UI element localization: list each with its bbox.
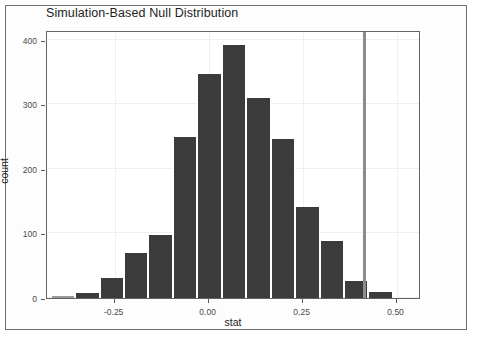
y-tick-label: 300 bbox=[23, 100, 37, 110]
y-tick-label: 200 bbox=[23, 165, 37, 175]
histogram-bar bbox=[368, 292, 392, 298]
x-tick-mark bbox=[302, 299, 303, 303]
histogram-bar bbox=[222, 45, 246, 298]
screenshot-root: Simulation-Based Null Distribution 01002… bbox=[0, 0, 478, 349]
y-tick-mark bbox=[41, 41, 45, 42]
y-tick-mark bbox=[41, 105, 45, 106]
observed-stat-line bbox=[363, 32, 366, 298]
y-tick-mark bbox=[41, 170, 45, 171]
histogram-bar bbox=[246, 98, 270, 298]
y-tick-label: 100 bbox=[23, 229, 37, 239]
y-tick-mark bbox=[41, 234, 45, 235]
histogram-chart: Simulation-Based Null Distribution 01002… bbox=[0, 0, 478, 349]
histogram-bar bbox=[124, 253, 148, 298]
x-axis-title: stat bbox=[46, 316, 420, 328]
y-axis-title: count bbox=[0, 158, 10, 184]
plot-panel bbox=[46, 31, 420, 299]
x-tick-mark bbox=[208, 299, 209, 303]
chart-title: Simulation-Based Null Distribution bbox=[46, 6, 238, 20]
histogram-bar bbox=[197, 74, 221, 298]
x-tick-mark bbox=[114, 299, 115, 303]
histogram-bar bbox=[75, 293, 99, 298]
histogram-bar bbox=[320, 241, 344, 298]
y-tick-label: 0 bbox=[32, 294, 37, 304]
y-tick-label: 400 bbox=[23, 36, 37, 46]
x-tick-mark bbox=[396, 299, 397, 303]
histogram-bar bbox=[51, 296, 75, 298]
histogram-bar bbox=[100, 278, 124, 298]
histogram-bar bbox=[173, 137, 197, 298]
histogram-bar bbox=[148, 235, 172, 298]
histogram-bar bbox=[271, 139, 295, 299]
histogram-bar bbox=[295, 207, 319, 298]
y-tick-mark bbox=[41, 299, 45, 300]
